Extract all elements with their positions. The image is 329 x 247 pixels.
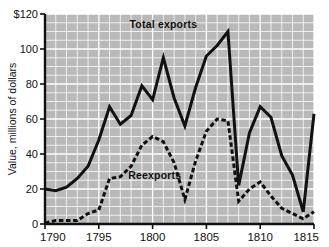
x-axis-tick-label: 1810: [247, 231, 273, 243]
series-annotation-total-exports: Total exports: [129, 18, 197, 30]
x-axis-tick-label: 1805: [194, 231, 220, 243]
y-axis-tick-label: 100: [20, 43, 38, 55]
series-annotation-reexports: Reexports: [128, 169, 181, 181]
y-axis-tick-label: $120: [14, 8, 38, 20]
y-axis-tick-label: 20: [26, 183, 38, 195]
x-axis-tick-label: 1795: [86, 231, 112, 243]
exports-line-chart: 020406080100$120179017951800180518101815…: [0, 0, 329, 247]
x-axis-tick-label: 1800: [140, 231, 166, 243]
y-axis-tick-label: 60: [26, 113, 38, 125]
y-axis-tick-label: 40: [26, 148, 38, 160]
chart-canvas: 020406080100$120179017951800180518101815…: [0, 0, 329, 247]
y-axis-title: Value, millions of dollars: [6, 63, 18, 175]
y-axis-tick-label: 80: [26, 78, 38, 90]
x-axis-tick-label: 1815: [293, 231, 319, 243]
x-axis-tick-label: 1790: [40, 231, 66, 243]
y-axis-tick-label: 0: [32, 218, 38, 230]
